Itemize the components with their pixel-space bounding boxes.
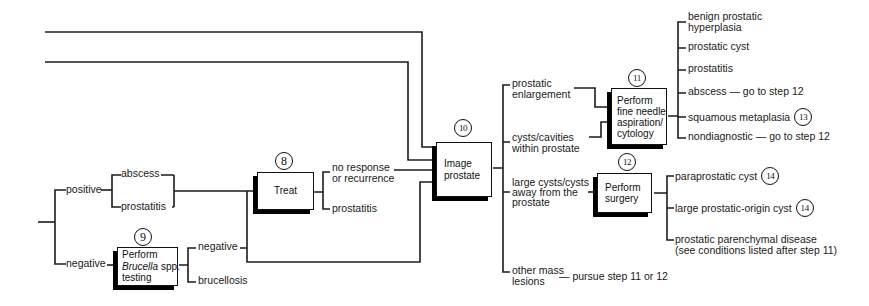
prostate-disease-flowchart: 8 9 10 11 12 positive negative abscess p… (0, 0, 869, 306)
cysts-cavities-finding-label: cysts/cavities within prostate (512, 132, 580, 154)
brucella-line-2: Brucella spp. (122, 261, 177, 273)
paraprostatic-cyst-label: paraprostatic cyst (675, 171, 757, 182)
enlargement-to-step11-line (574, 88, 610, 107)
step-11-badge: 11 (628, 69, 646, 87)
top-feed-line-1 (45, 32, 435, 147)
large-cysts-finding-label: large cysts/cysts away from the prostate (512, 177, 589, 207)
brucella-testing-node: Perform Brucella spp. testing (117, 247, 178, 286)
brucella-line-1: Perform (122, 249, 177, 261)
surgery-node-title: Perform surgery (605, 182, 651, 205)
abscess-result-label: abscess — go to step 12 (688, 86, 804, 97)
step8-output-bracket (314, 172, 330, 209)
fna-node-title: Perform fine needle aspiration/ cytology (617, 95, 666, 139)
step12-output-bracket (654, 176, 674, 240)
step-14-badge-b: 14 (796, 199, 814, 217)
pursue-step-label: — pursue step 11 or 12 (559, 271, 668, 282)
parenchymal-disease-label: prostatic parenchymal disease (see condi… (675, 234, 837, 256)
no-response-label: no response or recurrence (332, 162, 394, 183)
prostatic-cyst-result-label: prostatic cyst (688, 41, 749, 52)
culture-positive-label: positive (66, 184, 102, 195)
image-prostate-node: Image prostate (436, 142, 492, 197)
findings-close-bracket (161, 175, 256, 207)
bph-result-label: benign prostatic hyperplasia (688, 11, 762, 33)
step-14-badge-a: 14 (761, 167, 779, 185)
abscess-finding-label: abscess (121, 168, 160, 179)
findings-bracket (112, 175, 121, 207)
nondiagnostic-result-label: nondiagnostic — go to step 12 (688, 131, 830, 142)
step-10-badge: 10 (454, 119, 472, 137)
treat-node-title: Treat (274, 185, 297, 197)
step-8-badge: 8 (275, 152, 293, 170)
culture-bracket (55, 190, 66, 264)
other-mass-finding-label: other mass lesions (512, 265, 564, 286)
step-12-badge: 12 (618, 153, 636, 171)
treat-prostatitis-outcome-label: prostatitis (332, 203, 377, 214)
brucellosis-label: brucellosis (198, 275, 248, 286)
enlargement-finding-label: prostatic enlargement (512, 78, 570, 100)
prostatitis-result-label: prostatitis (688, 63, 733, 74)
step9-output-bracket (179, 248, 196, 282)
step10-output-bracket (493, 85, 510, 272)
large-origin-cyst-result: large prostatic-origin cyst 14 (675, 199, 814, 217)
brucella-line-3: testing (122, 272, 177, 284)
treat-node: Treat (257, 172, 314, 210)
large-origin-cyst-label: large prostatic-origin cyst (675, 203, 792, 214)
paraprostatic-cyst-result: paraprostatic cyst 14 (675, 167, 779, 185)
squamous-metaplasia-result: squamous metaplasia 13 (688, 108, 812, 126)
step11-output-bracket (668, 22, 686, 138)
step-13-badge: 13 (794, 108, 812, 126)
cysts-to-step11-line (589, 122, 610, 137)
fna-node: Perform fine needle aspiration/ cytology (611, 88, 667, 145)
top-feed-line-2 (45, 62, 435, 160)
culture-negative-label: negative (66, 258, 106, 269)
surgery-node: Perform surgery (597, 173, 652, 213)
step-9-badge: 9 (134, 228, 152, 246)
image-prostate-title: Image prostate (444, 158, 491, 181)
brucella-negative-label: negative (198, 241, 238, 252)
squamous-metaplasia-label: squamous metaplasia (688, 112, 790, 123)
prostatitis-finding-label: prostatitis (121, 201, 166, 212)
